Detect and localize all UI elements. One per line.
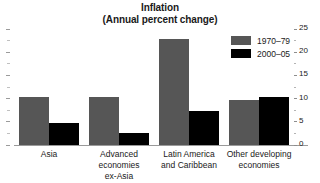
category-label: Asia: [14, 149, 84, 182]
bar: [49, 123, 79, 145]
y-axis-tick-label: 25: [299, 23, 308, 32]
category-label: Other developingeconomies: [224, 149, 294, 182]
tick-mark: [6, 75, 10, 76]
tick-mark: [6, 121, 10, 122]
tick-mark: [294, 121, 297, 122]
bar-group: [14, 29, 84, 145]
bar: [159, 39, 189, 145]
tick-mark: [294, 52, 297, 53]
tick-mark: [294, 75, 297, 76]
tick-mark: [6, 98, 10, 99]
tick-mark: [294, 87, 296, 88]
category-label: Latin Americaand Caribbean: [154, 149, 224, 182]
bar: [89, 97, 119, 145]
tick-mark: [6, 145, 10, 146]
chart-legend: 1970–792000–05: [231, 34, 290, 60]
chart-title: Inflation: [0, 2, 320, 14]
tick-mark: [7, 40, 10, 41]
category-label-line: Advanced economies: [84, 149, 154, 171]
legend-item[interactable]: 1970–79: [231, 34, 290, 47]
tick-mark: [294, 110, 296, 111]
category-label-line: ex-Asia: [84, 171, 154, 182]
tick-mark: [6, 52, 10, 53]
bar: [189, 111, 219, 145]
bar-group: [154, 29, 224, 145]
y-axis-tick-label: 15: [299, 69, 308, 78]
tick-mark: [7, 110, 10, 111]
tick-mark: [294, 98, 297, 99]
right-axis-ticks: 0510152025: [294, 29, 320, 145]
chart-subtitle: (Annual percent change): [0, 14, 320, 26]
category-label-line: Asia: [14, 149, 84, 160]
chart-title-block: Inflation (Annual percent change): [0, 2, 320, 26]
tick-mark: [294, 40, 296, 41]
bar: [259, 97, 289, 145]
left-axis-ticks: [4, 29, 14, 145]
tick-mark: [294, 63, 296, 64]
category-label-line: economies: [224, 160, 294, 171]
category-axis-labels: AsiaAdvanced economiesex-AsiaLatin Ameri…: [14, 149, 294, 182]
category-label-line: and Caribbean: [154, 160, 224, 171]
tick-mark: [6, 29, 10, 30]
legend-item[interactable]: 2000–05: [231, 47, 290, 60]
tick-mark: [7, 133, 10, 134]
legend-label: 2000–05: [257, 49, 290, 59]
inflation-bar-chart: Inflation (Annual percent change) 051015…: [0, 0, 320, 183]
tick-mark: [7, 63, 10, 64]
bar: [229, 100, 259, 145]
x-axis-baseline: [14, 145, 308, 146]
y-axis-tick-label: 10: [299, 93, 308, 102]
bar: [119, 133, 149, 145]
tick-mark: [7, 87, 10, 88]
category-label: Advanced economiesex-Asia: [84, 149, 154, 182]
legend-label: 1970–79: [257, 36, 290, 46]
bar-group: [84, 29, 154, 145]
tick-mark: [294, 145, 297, 146]
category-label-line: Latin America: [154, 149, 224, 160]
legend-swatch: [231, 36, 251, 45]
tick-mark: [294, 29, 297, 30]
category-label-line: Other developing: [224, 149, 294, 160]
y-axis-tick-label: 0: [299, 139, 303, 148]
y-axis-tick-label: 20: [299, 46, 308, 55]
bar: [19, 97, 49, 145]
tick-mark: [294, 133, 296, 134]
y-axis-tick-label: 5: [299, 116, 303, 125]
legend-swatch: [231, 49, 251, 58]
